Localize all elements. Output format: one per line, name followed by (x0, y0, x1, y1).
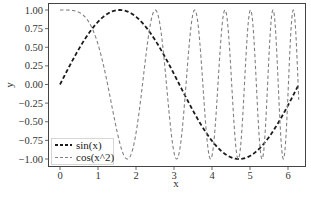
y-axis-label: y (3, 82, 15, 88)
x-tick-label: 0 (57, 170, 62, 181)
legend: sin(x) cos(x^2) (52, 139, 115, 165)
y-tick-label: 1.00 (25, 5, 43, 16)
x-tick-label: 2 (133, 170, 138, 181)
y-tick-label: −0.75 (19, 135, 43, 146)
x-tick-label: 1 (95, 170, 100, 181)
y-tick-label: 0.50 (25, 42, 43, 53)
x-tick-label: 4 (209, 170, 215, 181)
y-tick-label: −1.00 (19, 154, 43, 165)
legend-label-sin: sin(x) (76, 139, 102, 152)
y-tick-label: 0.25 (25, 60, 43, 71)
y-tick-label: 0.75 (25, 23, 43, 34)
y-tick-label: −0.25 (19, 98, 43, 109)
x-tick-label: 5 (247, 170, 252, 181)
y-tick-label: −0.50 (19, 116, 43, 127)
x-axis-label: x (173, 177, 179, 189)
legend-label-cos: cos(x^2) (76, 151, 114, 164)
y-tick-label: 0.00 (25, 79, 43, 90)
x-tick-label: 6 (285, 170, 290, 181)
line-chart: 1.000.750.500.250.00−0.25−0.50−0.75−1.00… (0, 0, 311, 198)
